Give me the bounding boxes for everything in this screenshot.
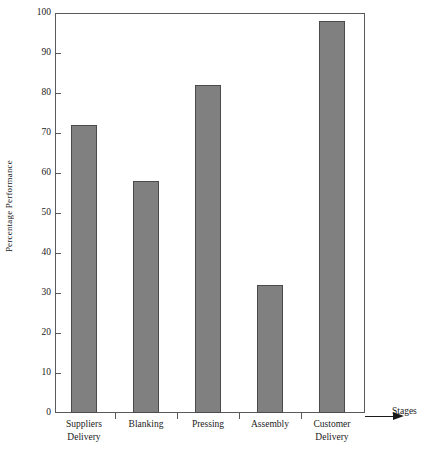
x-axis-tick-label: Blanking [129, 418, 164, 431]
y-axis-tick-mark [55, 293, 61, 294]
bar [195, 85, 221, 413]
y-axis-tick-label: 10 [42, 368, 52, 378]
y-axis-tick-mark [55, 93, 61, 94]
y-axis-tick-mark [55, 373, 61, 374]
y-axis-tick-label: 50 [42, 208, 52, 218]
x-axis-tick-label: SuppliersDelivery [66, 418, 102, 443]
y-axis-tick-mark [55, 213, 61, 214]
plot-area [55, 13, 365, 413]
bar [71, 125, 97, 413]
y-axis-tick-label: 20 [42, 328, 52, 338]
y-axis-title-label: Percentage Performance [4, 160, 14, 252]
y-axis-tick-label: 0 [46, 408, 51, 418]
x-axis-tick-label: Assembly [251, 418, 289, 431]
bar [319, 21, 345, 413]
y-axis-tick-label: 30 [42, 288, 52, 298]
x-axis-title-label: Stages [392, 406, 417, 416]
y-axis-tick-mark [55, 173, 61, 174]
y-axis-tick-label: 100 [37, 8, 51, 18]
x-axis-tick-labels: SuppliersDeliveryBlankingPressingAssembl… [55, 418, 365, 456]
y-axis-tick-label: 40 [42, 248, 52, 258]
y-axis-tick-label: 60 [42, 168, 52, 178]
y-axis-tick-mark [55, 133, 61, 134]
bar [257, 285, 283, 413]
y-axis-tick-label: 70 [42, 128, 52, 138]
y-axis-tick-labels: 0102030405060708090100 [18, 0, 54, 456]
bar [133, 181, 159, 413]
x-axis-tick-label: CustomerDelivery [314, 418, 351, 443]
bar-chart: Percentage Performance 01020304050607080… [0, 0, 430, 456]
y-axis-tick-label: 80 [42, 88, 52, 98]
y-axis-tick-mark [55, 53, 61, 54]
x-axis-tick-label: Pressing [192, 418, 224, 431]
y-axis-tick-mark [55, 333, 61, 334]
y-axis-title: Percentage Performance [0, 0, 18, 413]
y-axis-tick-label: 90 [42, 48, 52, 58]
y-axis-tick-mark [55, 253, 61, 254]
